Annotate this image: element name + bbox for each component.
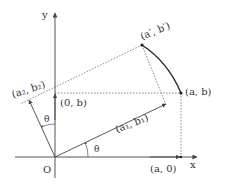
label-a-b: (a, b)	[185, 86, 212, 97]
theta-label-y: θ	[44, 114, 49, 124]
y-axis-label: y	[41, 9, 48, 20]
angle-arc-x	[85, 142, 88, 157]
point-a-0	[180, 156, 182, 158]
angle-arc-y	[41, 124, 55, 127]
dotted-line-a2b2	[20, 45, 142, 104]
vector-a2b2	[29, 100, 55, 157]
label-0-b: (0, b)	[60, 97, 87, 108]
x-axis-label: x	[190, 159, 196, 170]
point-a-prime-b-prime	[140, 43, 143, 46]
origin-label: O	[43, 164, 51, 175]
label-a-0: (a, 0)	[150, 163, 177, 174]
point-a-b	[179, 91, 182, 94]
rotation-diagram: y x O (a, b) (a′, b′) (0, b) (a, 0) (a₁,…	[0, 0, 225, 190]
label-a-prime-b-prime: (a′, b′)	[139, 20, 172, 42]
theta-label-x: θ	[94, 144, 99, 154]
rotation-arc	[142, 45, 181, 93]
label-a2-b2: (a₂, b₂)	[10, 79, 46, 100]
vector-a1b1	[55, 104, 166, 157]
label-a1-b1: (a₁, b₁)	[114, 112, 150, 135]
